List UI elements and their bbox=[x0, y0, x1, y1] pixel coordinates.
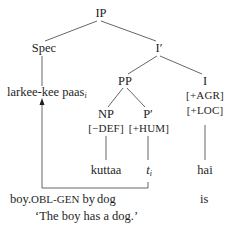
pbar-feature-hum: [+HUM] bbox=[129, 123, 169, 134]
edge-ip-spec bbox=[45, 21, 97, 41]
node-p-bar: P′ bbox=[143, 108, 153, 121]
node-spec: Spec bbox=[32, 42, 56, 55]
translation: ‘The boy has a dog.’ bbox=[35, 210, 138, 223]
edge-ibar-pp bbox=[128, 56, 157, 74]
edge-ibar-i bbox=[160, 56, 202, 74]
spec-content-index: i bbox=[84, 91, 86, 100]
i-feature-agr: [+AGR] bbox=[186, 90, 224, 101]
gloss-col2: dog bbox=[97, 193, 116, 206]
leaf-hai: hai bbox=[197, 164, 212, 177]
spec-content-text: larkee-kee paas bbox=[7, 85, 84, 99]
leaf-trace: ti bbox=[146, 164, 152, 178]
node-ip: IP bbox=[95, 7, 106, 20]
i-feature-loc: [+LOC] bbox=[187, 105, 224, 116]
edge-ip-ibar bbox=[101, 21, 156, 41]
edge-pp-np bbox=[108, 88, 123, 107]
gloss-boy: boy. bbox=[10, 192, 31, 206]
spec-content: larkee-kee paasi bbox=[7, 86, 87, 100]
gloss-col3: is bbox=[200, 193, 208, 206]
trace-index: i bbox=[150, 169, 152, 178]
edge-pp-pbar bbox=[127, 88, 145, 107]
node-np: NP bbox=[98, 108, 114, 121]
gloss-obl-gen: OBL-GEN bbox=[31, 193, 79, 205]
np-feature-def: [−DEF] bbox=[88, 123, 124, 134]
node-i: I bbox=[203, 75, 207, 88]
gloss-by: by bbox=[79, 192, 95, 206]
node-pp: PP bbox=[118, 75, 132, 88]
node-i-bar: I′ bbox=[156, 42, 163, 55]
leaf-kuttaa: kuttaa bbox=[91, 164, 122, 177]
gloss-col1: boy.OBL-GEN by bbox=[10, 193, 95, 206]
